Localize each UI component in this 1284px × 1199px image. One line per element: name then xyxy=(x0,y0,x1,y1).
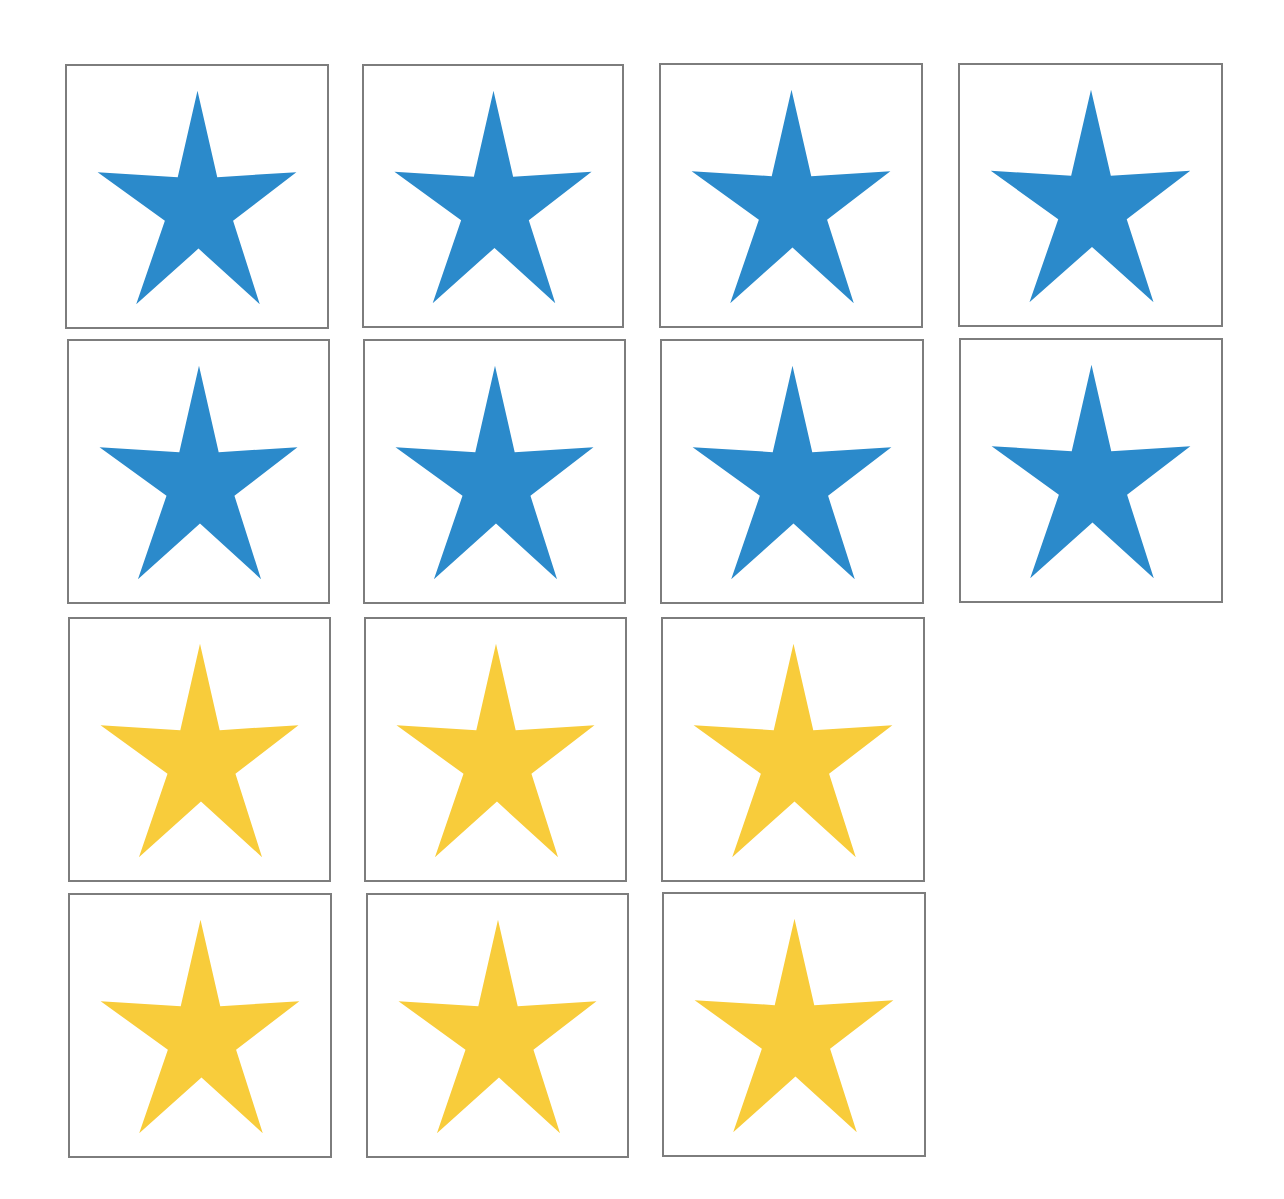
star-icon xyxy=(960,65,1221,325)
star-card-13-yellow xyxy=(366,893,629,1158)
star-card-5-blue xyxy=(67,339,330,604)
star-icon xyxy=(70,895,330,1156)
star-icon xyxy=(662,341,922,602)
star-card-2-blue xyxy=(362,64,624,328)
star-icon xyxy=(365,341,624,602)
star-icon xyxy=(67,66,327,327)
star-card-11-yellow xyxy=(661,617,925,882)
star-card-14-yellow xyxy=(662,892,926,1157)
star-card-8-blue xyxy=(959,338,1223,603)
star-card-6-blue xyxy=(363,339,626,604)
star-card-7-blue xyxy=(660,339,924,604)
star-card-9-yellow xyxy=(68,617,331,882)
star-card-3-blue xyxy=(659,63,923,328)
star-icon xyxy=(70,619,329,880)
star-icon xyxy=(661,65,921,326)
star-card-4-blue xyxy=(958,63,1223,327)
star-card-1-blue xyxy=(65,64,329,329)
star-icon xyxy=(364,66,622,326)
star-icon xyxy=(368,895,627,1156)
star-card-12-yellow xyxy=(68,893,332,1158)
star-grid xyxy=(0,0,1284,1199)
star-icon xyxy=(664,894,924,1155)
star-icon xyxy=(69,341,328,602)
star-icon xyxy=(961,340,1221,601)
star-icon xyxy=(663,619,923,880)
star-card-10-yellow xyxy=(364,617,627,882)
star-icon xyxy=(366,619,625,880)
